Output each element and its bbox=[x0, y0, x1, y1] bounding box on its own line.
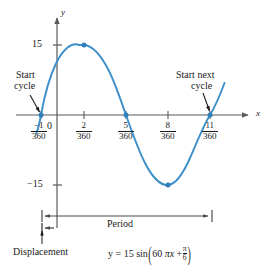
start-next-cycle-arrow bbox=[203, 93, 210, 111]
fraction-numerator: 5 bbox=[118, 121, 134, 130]
start-next-cycle-label-line2: cycle bbox=[191, 81, 212, 91]
point-zero-5-360 bbox=[124, 113, 129, 118]
start-next-cycle-label-line1: Start next bbox=[176, 70, 215, 80]
point-start-next-cycle bbox=[208, 113, 213, 118]
equation-pi-x: πx bbox=[165, 248, 174, 259]
fraction-numerator: 11 bbox=[202, 121, 218, 130]
x-tick-label-2-360: 2 360 bbox=[76, 121, 92, 142]
equation-coefficient: 60 bbox=[152, 248, 162, 259]
x-axis-label: x bbox=[256, 109, 260, 118]
start-cycle-label-line2: cycle bbox=[14, 81, 35, 91]
equation-plus: + bbox=[177, 248, 183, 259]
fraction-denominator: 360 bbox=[31, 132, 47, 141]
x-tick-label-5-360: 5 360 bbox=[118, 121, 134, 142]
figure-canvas: y x 15 −15 −1 360 0 2 360 5 360 8 360 11… bbox=[0, 0, 277, 274]
equation-lhs: y = 15 sin bbox=[108, 248, 148, 259]
point-min bbox=[166, 183, 171, 188]
fraction-denominator: 360 bbox=[202, 132, 218, 141]
equation-close-paren: ) bbox=[187, 242, 191, 264]
fraction-numerator: −1 bbox=[31, 121, 47, 130]
y-tick-label-neg15: −15 bbox=[27, 179, 43, 189]
x-tick-label-11-360: 11 360 bbox=[202, 121, 218, 142]
period-label: Period bbox=[107, 219, 133, 229]
y-axis-label: y bbox=[61, 8, 65, 17]
fraction-denominator: 360 bbox=[160, 132, 176, 141]
start-cycle-arrow bbox=[30, 95, 40, 112]
fraction-numerator: 2 bbox=[76, 121, 92, 130]
equation-label: y = 15 sin(60 πx +π6) bbox=[108, 245, 191, 261]
fraction-numerator: 8 bbox=[160, 121, 176, 130]
equation-phase-fraction: π6 bbox=[183, 245, 187, 261]
fraction-denominator: 360 bbox=[76, 132, 92, 141]
equation-open-paren: ( bbox=[148, 242, 152, 264]
y-tick-label-15: 15 bbox=[32, 39, 42, 49]
start-cycle-label-line1: Start bbox=[16, 70, 35, 80]
x-tick-label-zero: 0 bbox=[47, 121, 52, 131]
x-tick-label-neg1-360: −1 360 bbox=[31, 121, 47, 142]
point-max bbox=[82, 43, 87, 48]
displacement-label: Displacement bbox=[13, 247, 68, 257]
point-start-cycle bbox=[39, 113, 44, 118]
fraction-denominator: 360 bbox=[118, 132, 134, 141]
x-tick-label-8-360: 8 360 bbox=[160, 121, 176, 142]
fraction-denominator: 6 bbox=[183, 253, 187, 262]
fraction-numerator: π bbox=[183, 244, 187, 253]
